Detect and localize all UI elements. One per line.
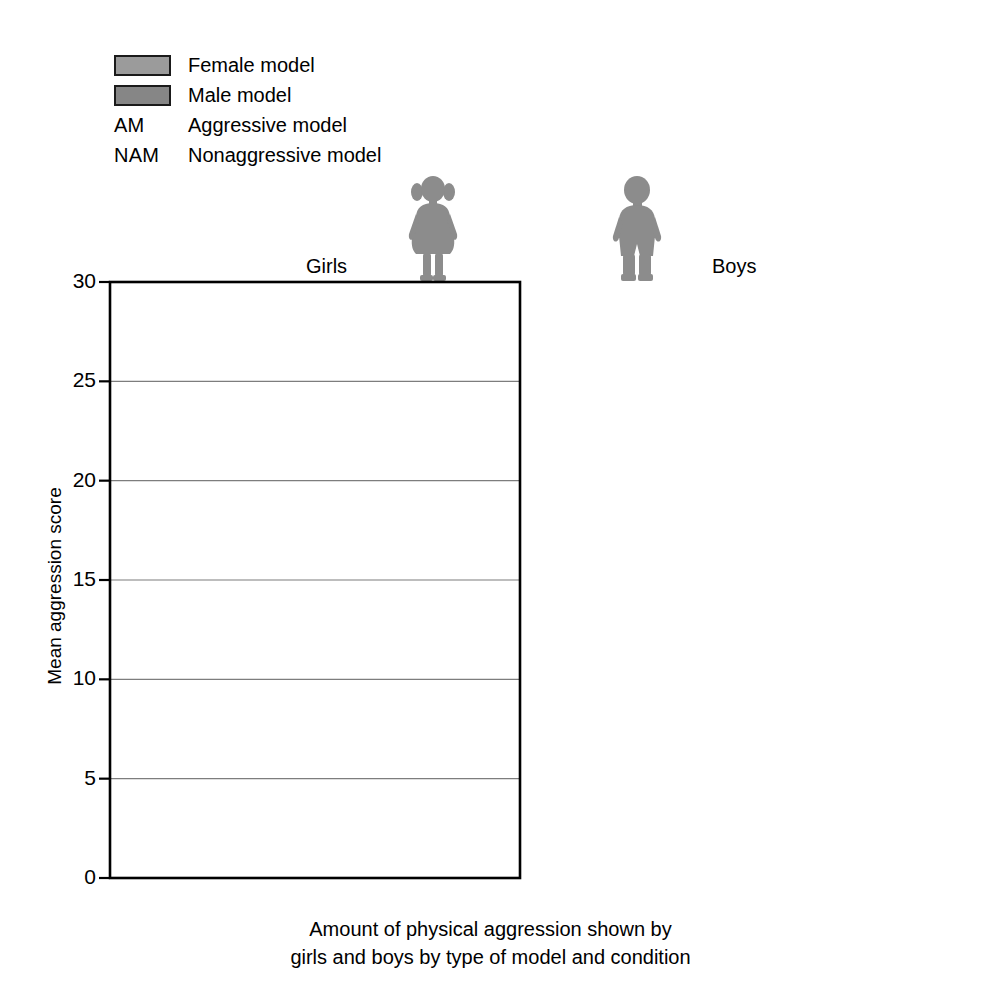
figure-bandura-aggression-chart: Female model Male model AM Aggressive mo…: [0, 0, 981, 995]
plot-area: [0, 0, 981, 995]
caption-line-1: Amount of physical aggression shown by: [0, 915, 981, 943]
caption-line-2: girls and boys by type of model and cond…: [0, 943, 981, 971]
figure-caption: Amount of physical aggression shown by g…: [0, 915, 981, 971]
